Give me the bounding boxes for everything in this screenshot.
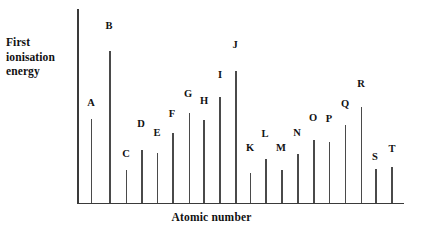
bar-o bbox=[313, 140, 315, 203]
bar-label-k: K bbox=[243, 143, 257, 154]
bar-label-h: H bbox=[197, 96, 211, 107]
bar-label-b: B bbox=[102, 21, 116, 32]
y-axis-line bbox=[77, 9, 79, 204]
y-axis-title: First ionisation energy bbox=[6, 35, 74, 79]
bar-r bbox=[361, 107, 363, 203]
bar-c bbox=[126, 170, 128, 203]
bar-label-e: E bbox=[150, 128, 164, 139]
bar-s bbox=[375, 169, 377, 203]
bar-label-f: F bbox=[165, 109, 179, 120]
bar-label-l: L bbox=[258, 129, 272, 140]
bar-label-i: I bbox=[213, 70, 227, 81]
bar-label-m: M bbox=[274, 143, 288, 154]
bar-b bbox=[109, 51, 111, 203]
bar-j bbox=[235, 71, 237, 203]
bar-g bbox=[189, 113, 191, 203]
bar-l bbox=[265, 159, 267, 203]
bar-label-s: S bbox=[368, 152, 382, 163]
bar-label-g: G bbox=[181, 89, 195, 100]
bar-label-r: R bbox=[354, 79, 368, 90]
bar-d bbox=[141, 150, 143, 203]
ionisation-energy-chart: First ionisation energy ABCDEFGHIJKLMNOP… bbox=[0, 0, 423, 236]
y-axis-title-line-2: ionisation bbox=[6, 50, 74, 65]
bar-t bbox=[391, 167, 393, 203]
bar-a bbox=[91, 119, 93, 203]
bar-h bbox=[203, 120, 205, 203]
bar-n bbox=[297, 154, 299, 203]
x-axis-title: Atomic number bbox=[0, 211, 423, 223]
bar-k bbox=[250, 173, 252, 203]
bar-label-c: C bbox=[119, 149, 133, 160]
bar-label-j: J bbox=[228, 40, 242, 51]
bar-f bbox=[172, 133, 174, 203]
bar-label-q: Q bbox=[338, 99, 352, 110]
bar-label-o: O bbox=[306, 113, 320, 124]
bar-e bbox=[157, 153, 159, 203]
bar-label-p: P bbox=[322, 114, 336, 125]
bar-p bbox=[329, 142, 331, 203]
y-axis-title-line-3: energy bbox=[6, 64, 74, 79]
bar-i bbox=[219, 97, 221, 203]
bar-label-d: D bbox=[134, 119, 148, 130]
bar-m bbox=[281, 170, 283, 203]
bar-label-t: T bbox=[385, 144, 399, 155]
y-axis-title-line-1: First bbox=[6, 35, 74, 50]
x-axis-line bbox=[77, 203, 404, 205]
bar-q bbox=[345, 125, 347, 203]
bar-label-n: N bbox=[290, 128, 304, 139]
bar-label-a: A bbox=[84, 98, 98, 109]
